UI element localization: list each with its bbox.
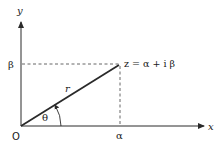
- vector-r: [21, 65, 119, 126]
- complex-plane-diagram: y x O β α z = α + i β r θ: [0, 0, 218, 142]
- y-axis-label: y: [16, 5, 23, 16]
- origin-label: O: [12, 131, 20, 142]
- theta-arc: [56, 106, 62, 126]
- r-label: r: [65, 83, 71, 94]
- alpha-label: α: [116, 130, 123, 141]
- theta-label: θ: [42, 112, 48, 123]
- x-axis-label: x: [208, 121, 214, 132]
- point-z-label: z = α + i β: [124, 58, 175, 69]
- beta-label: β: [8, 59, 14, 70]
